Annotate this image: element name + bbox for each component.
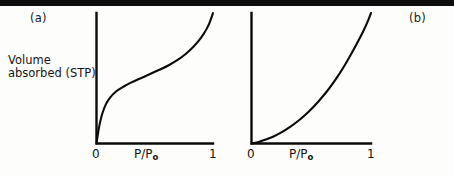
plot-b-xaxis-label: P/Po — [289, 147, 313, 161]
plot-b-axes — [252, 13, 372, 144]
plot-b-xaxis-label-text: P/P — [289, 147, 308, 161]
plot-b-xtick-min: 0 — [247, 147, 255, 161]
figure-adsorption-isotherms: (a) (b) Volume absorbed (STP) 0 P/Po 1 0… — [0, 0, 454, 175]
plot-b-xtick-max: 1 — [367, 147, 375, 161]
plot-b-xaxis-label-sub: o — [308, 152, 314, 162]
plot-panel-b — [0, 0, 454, 175]
plot-b-curve-type-iii — [252, 13, 372, 144]
